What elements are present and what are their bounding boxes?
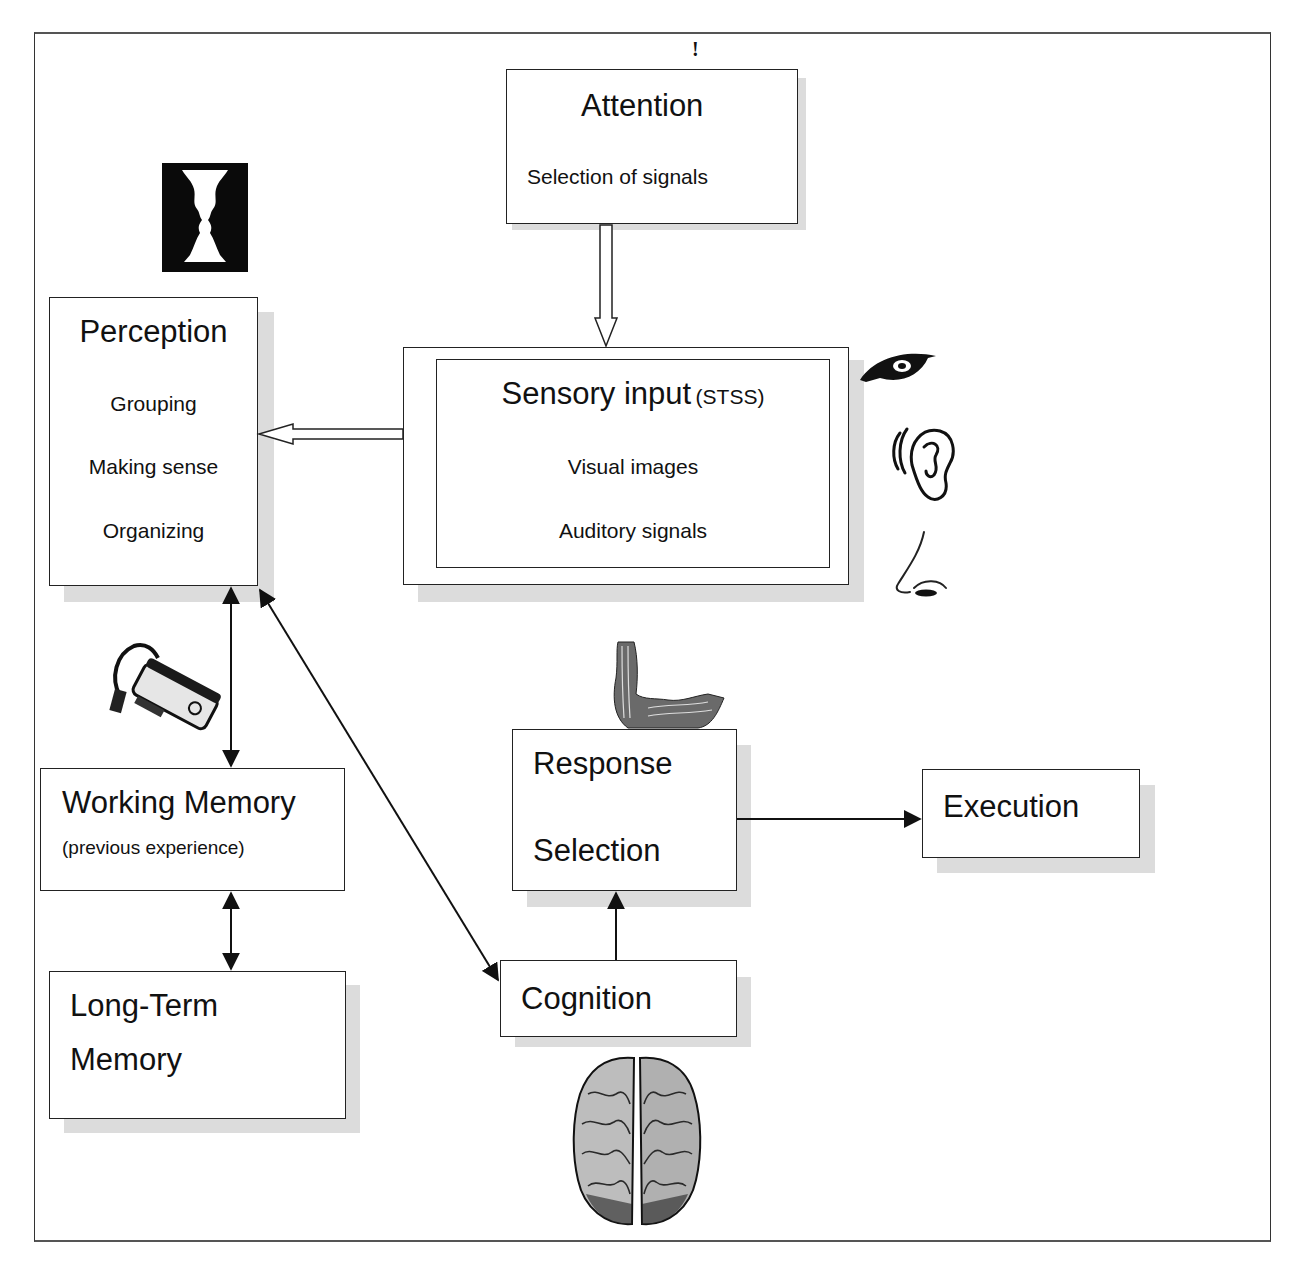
rubin-vase-faces-icon [162,163,248,272]
flexed-arm-muscle-icon [608,638,734,730]
usb-card-reader-icon [106,638,224,738]
edge-attention-to-sensory-input [595,225,617,346]
ear-icon [890,425,956,505]
eye-icon [858,350,938,388]
edge-perception-cognition [260,590,498,980]
brain-icon [566,1054,708,1230]
nose-icon [890,530,960,605]
edge-sensory-input-to-perception [259,424,403,444]
